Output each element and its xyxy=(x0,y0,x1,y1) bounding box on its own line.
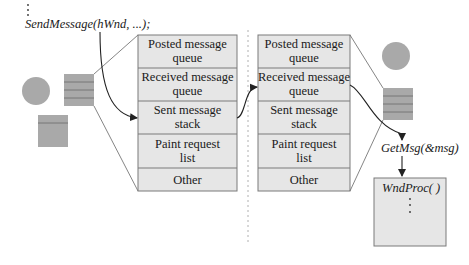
right-paint-list-l1: Paint request xyxy=(272,137,337,151)
right-other: Other xyxy=(290,173,319,187)
right-sent-stack-l1: Sent message xyxy=(270,103,338,117)
queue-icon-right xyxy=(383,88,413,120)
transfer-arrow xyxy=(237,87,257,118)
right-paint-list-l2: list xyxy=(296,151,312,165)
zoom-line-left-bottom xyxy=(94,106,138,191)
left-paint-list-l1: Paint request xyxy=(155,137,220,151)
send-message-call: SendMessage(hWnd, ...); xyxy=(25,17,150,31)
left-other: Other xyxy=(173,173,202,187)
thread-circle-right xyxy=(382,42,410,70)
getmsg-call: GetMsg(&msg) xyxy=(381,141,459,155)
right-received-queue-l1: Received message xyxy=(258,70,350,84)
zoom-line-right-top xyxy=(350,35,383,88)
window-icon-left xyxy=(38,115,68,147)
thread-circle-left xyxy=(22,77,50,105)
right-thread-queues: Posted message queue Received message qu… xyxy=(258,35,350,191)
left-sent-stack-l1: Sent message xyxy=(154,103,222,117)
send-arrow xyxy=(100,32,137,118)
right-sent-stack-l2: stack xyxy=(291,117,317,131)
left-received-queue-l1: Received message xyxy=(142,70,234,84)
left-sent-stack-l2: stack xyxy=(175,117,201,131)
left-posted-queue-l2: queue xyxy=(173,51,203,65)
thread-message-diagram: SendMessage(hWnd, ...); Posted message q… xyxy=(0,0,469,265)
ellipsis-dots-top xyxy=(27,4,29,16)
right-posted-queue-l2: queue xyxy=(289,51,319,65)
right-posted-queue-l1: Posted message xyxy=(265,37,344,51)
wndproc-box: WndProc( ) xyxy=(374,178,446,246)
queue-icon-left xyxy=(64,74,94,106)
left-thread-queues: Posted message queue Received message qu… xyxy=(138,35,237,191)
wndproc-label: WndProc( ) xyxy=(382,181,440,195)
left-posted-queue-l1: Posted message xyxy=(148,37,227,51)
left-paint-list-l2: list xyxy=(180,151,196,165)
right-received-queue-l2: queue xyxy=(289,84,319,98)
left-received-queue-l2: queue xyxy=(173,84,203,98)
